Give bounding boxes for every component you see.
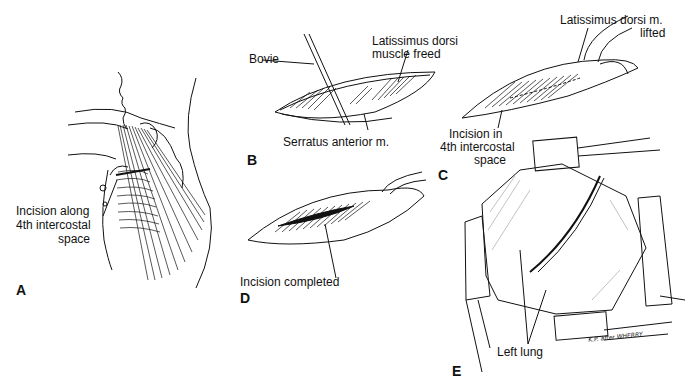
panel-e-letter: E <box>452 363 461 379</box>
panel-a-letter: A <box>16 282 26 298</box>
panel-b-letter: B <box>247 152 257 168</box>
panel-a-label-line-1: Incision along <box>16 204 89 218</box>
panel-c-latissimus-label-1: Latissimus dorsi m. <box>560 13 663 27</box>
panel-b-latissimus-label-1: Latissimus dorsi <box>372 34 458 48</box>
panel-b-latissimus-label-2: muscle freed <box>372 47 441 61</box>
panel-e-retractor-drawing <box>465 137 685 372</box>
panel-a-label-line-2: 4th intercostal <box>16 218 91 232</box>
panel-a-label-line-3: space <box>58 232 90 246</box>
panel-b-serratus-label: Serratus anterior m. <box>283 135 389 149</box>
panel-c-incision-label-3: space <box>474 153 506 167</box>
panel-c-incision-label-1: Incision in <box>449 127 502 141</box>
panel-d-incision-drawing <box>248 172 426 278</box>
panel-a-torso-drawing <box>68 72 211 288</box>
panel-c-letter: C <box>438 167 448 183</box>
illustration-canvas <box>0 0 695 386</box>
panel-d-letter: D <box>240 290 250 306</box>
panel-c-latissimus-label-2: lifted <box>640 26 665 40</box>
panel-b-bovie-label: Bovie <box>249 52 279 66</box>
panel-e-lung-label: Left lung <box>497 345 543 359</box>
panel-d-incision-label: Incision completed <box>240 275 339 289</box>
panel-c-incision-label-2: 4th intercostal <box>440 140 515 154</box>
panel-c-incision-drawing <box>462 16 638 128</box>
